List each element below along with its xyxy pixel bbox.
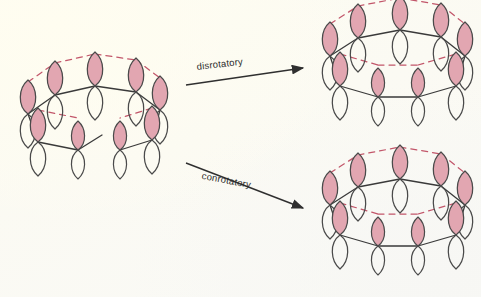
structure-product-conrotatory: [322, 145, 472, 275]
orbital-diagram-canvas: [0, 0, 481, 297]
structure-reactant: [20, 52, 167, 179]
reactant-orbital: [128, 58, 143, 126]
dis-orbital: [350, 4, 365, 72]
con-orbital: [392, 145, 407, 213]
dis-orbital: [332, 52, 347, 120]
con-orbital: [433, 152, 448, 220]
con-orbital: [332, 201, 347, 269]
reactant-orbital: [87, 52, 102, 120]
reactant-orbital-terminus: [71, 121, 84, 179]
structure-product-disrotatory: [322, 0, 472, 126]
reactant-orbital: [144, 106, 159, 174]
reactant-orbital-terminus: [113, 121, 126, 179]
dis-orbital: [392, 0, 407, 64]
dis-orbital: [433, 3, 448, 71]
reactant-orbital: [47, 61, 62, 129]
con-orbital: [350, 153, 365, 221]
